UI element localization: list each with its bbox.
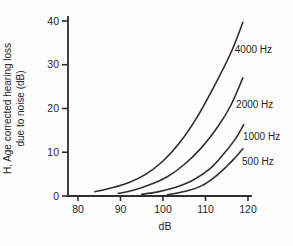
x-tick-label: 100 — [154, 203, 172, 215]
curve-4000-hz — [95, 22, 243, 191]
x-tick-label: 90 — [115, 203, 127, 215]
curve-label-1000-hz: 1000 Hz — [243, 131, 280, 142]
y-axis-title-line2: due to noise (dB) — [15, 70, 26, 146]
y-tick-label: 40 — [47, 15, 59, 27]
curve-label-2000-hz: 2000 Hz — [236, 99, 273, 110]
y-tick-label: 20 — [47, 102, 59, 114]
y-tick-label: 30 — [47, 58, 59, 70]
curve-label-500-hz: 500 Hz — [242, 156, 274, 167]
curve-2000-hz — [118, 78, 242, 193]
curve-label-4000-hz: 4000 Hz — [235, 44, 272, 55]
hearing-loss-line-chart: 0102030408090100110120dBH, Age corrected… — [0, 0, 293, 246]
x-tick-label: 120 — [239, 203, 257, 215]
curve-1000-hz — [142, 125, 244, 195]
hearing-loss-figure: 0102030408090100110120dBH, Age corrected… — [0, 0, 293, 246]
y-axis-title-line1: H, Age corrected hearing loss — [2, 43, 13, 174]
x-axis-title: dB — [159, 220, 172, 232]
x-tick-label: 110 — [197, 203, 214, 215]
y-tick-label: 10 — [47, 146, 59, 158]
x-tick-label: 80 — [72, 203, 84, 215]
y-tick-label: 0 — [53, 190, 59, 202]
